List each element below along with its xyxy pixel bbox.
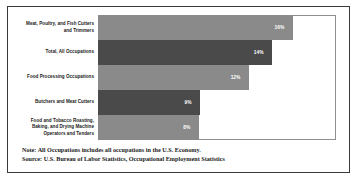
source-text: Source: U.S. Bureau of Labor Statistics,… — [22, 154, 332, 163]
figure-border: Meat, Poultry, and Fish Cutters and Trim… — [7, 6, 350, 173]
bar-row: Butchers and Meat Cutters 9% — [12, 90, 342, 115]
bar-value-label: 14% — [254, 50, 273, 55]
chart-screenshot: Meat, Poultry, and Fish Cutters and Trim… — [0, 0, 357, 180]
bar-row: Food Processing Occupations 12% — [12, 65, 342, 90]
bar: 8% — [98, 115, 199, 140]
bar: 14% — [98, 40, 272, 65]
category-label: Total, All Occupations — [12, 49, 98, 56]
footnotes: Note: All Occupations includes all occup… — [22, 145, 332, 164]
bar-value-label: 12% — [231, 75, 250, 80]
category-label-line: Total, All Occupations — [12, 49, 94, 56]
bar-value-label: 9% — [185, 100, 201, 105]
bar-track: 16% — [98, 15, 342, 40]
category-label: Food and Tobacco Roasting, Baking, and D… — [12, 118, 98, 138]
bar-value-label: 8% — [183, 125, 199, 130]
bar-track: 14% — [98, 40, 342, 65]
category-label: Butchers and Meat Cutters — [12, 99, 98, 106]
category-label-line: Butchers and Meat Cutters — [12, 99, 94, 106]
category-label: Meat, Poultry, and Fish Cutters and Trim… — [12, 21, 98, 34]
note-text: Note: All Occupations includes all occup… — [22, 145, 332, 154]
bar-row: Food and Tobacco Roasting, Baking, and D… — [12, 115, 342, 140]
category-label: Food Processing Occupations — [12, 74, 98, 81]
category-label-line: Meat, Poultry, and Fish Cutters — [12, 21, 94, 28]
category-label-line: Food and Tobacco Roasting, — [12, 118, 94, 125]
bar-value-label: 16% — [275, 25, 294, 30]
bar-track: 12% — [98, 65, 342, 90]
bar-rows: Meat, Poultry, and Fish Cutters and Trim… — [12, 15, 342, 140]
category-label-line: Baking, and Drying Machine — [12, 124, 94, 131]
bar: 9% — [98, 90, 200, 115]
bar: 16% — [98, 15, 293, 40]
category-label-line: Food Processing Occupations — [12, 74, 94, 81]
category-label-line: and Trimmers — [12, 28, 94, 35]
category-label-line: Operators and Tenders — [12, 131, 94, 138]
bar-track: 8% — [98, 115, 342, 140]
bar-row: Total, All Occupations 14% — [12, 40, 342, 65]
bar-row: Meat, Poultry, and Fish Cutters and Trim… — [12, 15, 342, 40]
bar: 12% — [98, 65, 249, 90]
bar-track: 9% — [98, 90, 342, 115]
